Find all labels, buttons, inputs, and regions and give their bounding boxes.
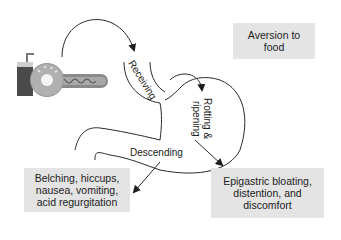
stage-descending: Descending bbox=[130, 147, 183, 158]
food-drink-icon bbox=[17, 54, 108, 97]
belching-box: Belching, hiccups, nausea, vomiting, aci… bbox=[24, 168, 130, 212]
belching-text: Belching, hiccups, nausea, vomiting, aci… bbox=[35, 172, 120, 208]
stage-rotting: Rotting & bbox=[202, 98, 213, 139]
stage-ripening: ripening bbox=[191, 101, 202, 137]
aversion-box: Aversion to food bbox=[233, 23, 315, 59]
intake-arrow bbox=[62, 20, 134, 57]
rotting-arrow bbox=[170, 74, 202, 90]
epigastric-box: Epigastric bloating, distention, and dis… bbox=[211, 168, 324, 218]
epigastric-text: Epigastric bloating, distention, and dis… bbox=[223, 175, 312, 211]
epigastric-arrow bbox=[195, 140, 222, 165]
belching-arrow bbox=[134, 162, 160, 192]
aversion-text: Aversion to food bbox=[248, 29, 300, 53]
